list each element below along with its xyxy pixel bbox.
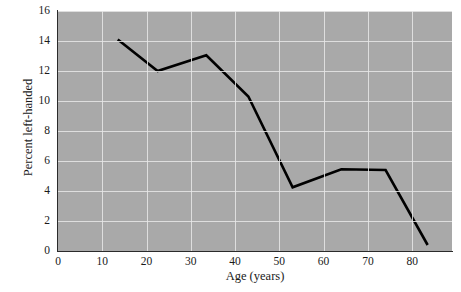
x-tick-label-20: 20 <box>132 255 162 267</box>
y-axis-title: Percent left-handed <box>21 38 36 218</box>
y-axis-line <box>57 10 58 252</box>
plot-area <box>58 11 452 251</box>
gridline-horizontal-12 <box>58 71 452 72</box>
x-tick-label-30: 30 <box>176 255 206 267</box>
gridline-horizontal-14 <box>58 41 452 42</box>
x-tick-label-0: 0 <box>43 255 73 267</box>
gridline-horizontal-16 <box>58 11 452 12</box>
x-tick-label-80: 80 <box>397 255 427 267</box>
x-axis-line <box>57 251 453 252</box>
gridline-horizontal-4 <box>58 191 452 192</box>
x-axis-title: Age (years) <box>58 269 452 284</box>
x-tick-label-60: 60 <box>309 255 339 267</box>
x-tick-label-70: 70 <box>353 255 383 267</box>
x-tick-label-50: 50 <box>264 255 294 267</box>
figure-left-handedness-by-age: 0246810121416 01020304050607080 Percent … <box>0 0 461 292</box>
gridline-horizontal-2 <box>58 221 452 222</box>
gridline-horizontal-10 <box>58 101 452 102</box>
x-tick-label-40: 40 <box>220 255 250 267</box>
x-tick-label-10: 10 <box>87 255 117 267</box>
y-tick-label-16: 16 <box>0 5 50 17</box>
gridline-horizontal-6 <box>58 161 452 162</box>
gridline-horizontal-8 <box>58 131 452 132</box>
